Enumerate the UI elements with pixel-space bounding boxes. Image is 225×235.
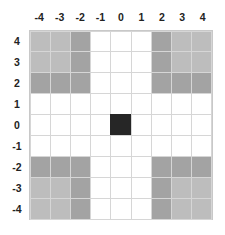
grid-cell xyxy=(151,93,172,115)
grid-cell xyxy=(171,51,192,73)
grid-cell xyxy=(50,93,71,115)
grid-cell xyxy=(191,72,212,94)
grid-cell xyxy=(30,51,51,73)
col-label: 3 xyxy=(172,11,192,27)
grid-cell xyxy=(50,156,71,178)
column-axis-labels: -4 -3 -2 -1 0 1 2 3 4 xyxy=(29,11,213,27)
grid-cell xyxy=(30,135,51,157)
grid-cell xyxy=(90,114,111,136)
grid-cell xyxy=(30,93,51,115)
grid-cell xyxy=(171,177,192,199)
grid-cell xyxy=(151,198,172,220)
grid-cell xyxy=(131,31,152,53)
col-label: 4 xyxy=(193,11,213,27)
grid-cell xyxy=(90,198,111,220)
row-label: 2 xyxy=(8,72,26,93)
grid-cell xyxy=(90,93,111,115)
grid-cell xyxy=(50,114,71,136)
grid-cell xyxy=(50,51,71,73)
col-label: -1 xyxy=(90,11,110,27)
grid-cell xyxy=(191,51,212,73)
grid-cell xyxy=(171,114,192,136)
grid-cell xyxy=(90,156,111,178)
grid-cell xyxy=(90,177,111,199)
grid-cell xyxy=(30,31,51,53)
row-axis-labels: 4 3 2 1 0 -1 -2 -3 -4 xyxy=(8,30,26,220)
grid-cell xyxy=(171,72,192,94)
center-cell xyxy=(110,114,131,136)
grid-cell xyxy=(50,72,71,94)
row-label: -4 xyxy=(8,199,26,220)
row-label: 0 xyxy=(8,114,26,135)
grid-cell xyxy=(90,31,111,53)
grid-cell xyxy=(30,114,51,136)
grid-cell xyxy=(110,135,131,157)
grid-cell xyxy=(50,31,71,53)
grid-cell xyxy=(151,135,172,157)
grid-cell xyxy=(131,51,152,73)
grid-cell xyxy=(191,114,212,136)
col-label: -3 xyxy=(49,11,69,27)
grid-cell xyxy=(110,51,131,73)
grid-cell xyxy=(191,198,212,220)
pixel-grid xyxy=(29,30,213,220)
grid-cell xyxy=(90,51,111,73)
grid-cell xyxy=(151,156,172,178)
grid-cell xyxy=(50,177,71,199)
row-label: 3 xyxy=(8,51,26,72)
grid-cell xyxy=(110,31,131,53)
grid-cell xyxy=(191,31,212,53)
grid-cell xyxy=(131,114,152,136)
grid-cell xyxy=(171,198,192,220)
grid-cell xyxy=(70,72,91,94)
row-label: -1 xyxy=(8,136,26,157)
grid-cell xyxy=(151,51,172,73)
grid-cell xyxy=(171,31,192,53)
grid-cell xyxy=(191,156,212,178)
col-label: 2 xyxy=(152,11,172,27)
grid-cell xyxy=(191,135,212,157)
col-label: 0 xyxy=(111,11,131,27)
grid-cell xyxy=(110,198,131,220)
grid-cell xyxy=(131,135,152,157)
grid-cell xyxy=(30,198,51,220)
grid-cell xyxy=(30,72,51,94)
grid-cell xyxy=(131,72,152,94)
grid-cell xyxy=(70,51,91,73)
grid-cell xyxy=(171,135,192,157)
grid-cell xyxy=(70,93,91,115)
grid-cell xyxy=(50,198,71,220)
col-label: -2 xyxy=(70,11,90,27)
col-label: -4 xyxy=(29,11,49,27)
grid-cell xyxy=(110,72,131,94)
grid-cell xyxy=(50,135,71,157)
grid-cell xyxy=(70,198,91,220)
col-label: 1 xyxy=(131,11,151,27)
grid-cell xyxy=(90,135,111,157)
grid-cell xyxy=(131,93,152,115)
grid-cell xyxy=(90,72,111,94)
grid-cell xyxy=(191,93,212,115)
grid-cell xyxy=(171,93,192,115)
row-label: -2 xyxy=(8,157,26,178)
grid-cell xyxy=(110,156,131,178)
grid-cell xyxy=(70,135,91,157)
grid-cell xyxy=(70,114,91,136)
grid-cell xyxy=(30,177,51,199)
grid-cell xyxy=(30,156,51,178)
grid-cell xyxy=(171,156,192,178)
grid-cell xyxy=(151,72,172,94)
row-label: -3 xyxy=(8,178,26,199)
row-label: 1 xyxy=(8,93,26,114)
grid-cell xyxy=(131,177,152,199)
grid-cell xyxy=(70,156,91,178)
grid-cell xyxy=(110,177,131,199)
row-label: 4 xyxy=(8,30,26,51)
grid-cell xyxy=(110,93,131,115)
grid-cell xyxy=(131,198,152,220)
grid-cell xyxy=(151,114,172,136)
grid-cell xyxy=(70,177,91,199)
grid-cell xyxy=(151,177,172,199)
grid-cell xyxy=(70,31,91,53)
grid-cell xyxy=(151,31,172,53)
